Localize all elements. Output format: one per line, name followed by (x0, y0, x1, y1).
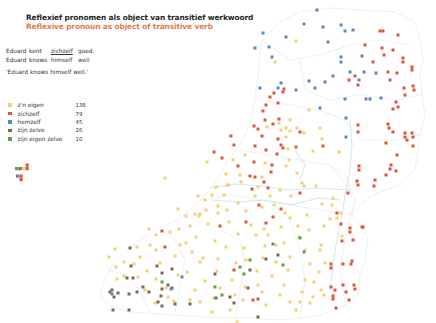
province-line (262, 40, 410, 60)
legend-swatch-icon (8, 129, 12, 133)
map-point (379, 30, 382, 33)
map-point (137, 276, 140, 279)
map-point (296, 127, 299, 130)
map-point (323, 294, 326, 297)
map-point (303, 251, 306, 254)
map-point (198, 215, 201, 218)
map-point (273, 92, 276, 95)
map-point (155, 278, 158, 281)
map-point (404, 132, 407, 135)
map-point (207, 223, 210, 226)
map-point (225, 173, 228, 176)
map-point (289, 256, 292, 259)
map-point (215, 186, 218, 189)
map-point (272, 216, 275, 219)
map-point (261, 176, 264, 179)
gloss-word: goed. (78, 47, 94, 56)
map-point (338, 151, 341, 154)
map-point (283, 88, 286, 91)
map-point (336, 212, 339, 215)
map-point (301, 291, 304, 294)
map-point (295, 146, 298, 149)
map-point (349, 231, 352, 234)
map-point (245, 221, 248, 224)
map-point (174, 255, 177, 258)
map-point (202, 257, 205, 260)
map-point (161, 281, 164, 284)
map-point (174, 303, 177, 306)
legend-item-zijn-eigen-zelve: zijn eigen zelve 10 (8, 135, 86, 143)
map-point (249, 259, 252, 262)
map-point (214, 240, 217, 243)
map-point (252, 299, 255, 302)
map-point (332, 298, 335, 301)
map-point (257, 186, 260, 189)
map-point (312, 150, 315, 153)
legend-label: zijn eigen zelve (18, 136, 76, 142)
gloss-word-highlighted: zichzelf (51, 47, 78, 56)
map-point (330, 263, 333, 266)
map-point (271, 56, 274, 59)
map-point (146, 270, 149, 273)
map-point (267, 234, 270, 237)
map-point (280, 129, 283, 132)
map-point (295, 309, 298, 312)
map-point (265, 304, 268, 307)
map-point (330, 267, 333, 270)
map-point (156, 265, 159, 268)
map-point (352, 29, 355, 32)
map-point (237, 202, 240, 205)
map-point (116, 278, 119, 281)
map-point (161, 305, 164, 308)
map-point (319, 249, 322, 252)
map-point (279, 189, 282, 192)
map-point (280, 144, 283, 147)
title-english: Reflexive pronoun as object of transitiv… (26, 22, 213, 31)
map-point (363, 71, 366, 74)
map-point (369, 98, 372, 101)
map-point (304, 279, 307, 282)
map-point (345, 291, 348, 294)
map-point (177, 274, 180, 277)
map-point (279, 294, 282, 297)
map-point (402, 57, 405, 60)
example-gloss: Eduard kent zichzelf goed. Eduard knows … (6, 47, 94, 64)
map-point (251, 188, 254, 191)
map-point (383, 54, 386, 57)
map-point (108, 256, 111, 259)
map-point (387, 123, 390, 126)
map-point (357, 184, 360, 187)
map-point (395, 170, 398, 173)
map-point (229, 296, 232, 299)
map-point (239, 266, 242, 269)
map-point (413, 89, 416, 92)
map-point (269, 195, 272, 198)
map-point (274, 61, 277, 64)
map-point (389, 79, 392, 82)
map-point (390, 164, 393, 167)
map-point (345, 136, 348, 139)
map-point (232, 159, 235, 162)
map-point (250, 224, 253, 227)
map-point (335, 307, 338, 310)
map-point (195, 236, 198, 239)
map-point (321, 138, 324, 141)
map-point (296, 172, 299, 175)
map-point (313, 281, 316, 284)
map-point (282, 147, 285, 150)
map-point (356, 180, 359, 183)
map-point (159, 262, 162, 265)
map-point (254, 176, 257, 179)
legend-count: 79 (76, 111, 83, 117)
map-point (321, 203, 324, 206)
map-point (161, 272, 164, 275)
map-point (299, 301, 302, 304)
map-point (126, 277, 129, 280)
map-point (262, 32, 265, 35)
map-point (154, 302, 157, 305)
map-point (213, 151, 216, 154)
map-point (299, 131, 302, 134)
map-point (340, 61, 343, 64)
map-point (111, 289, 114, 292)
map-point (240, 181, 243, 184)
